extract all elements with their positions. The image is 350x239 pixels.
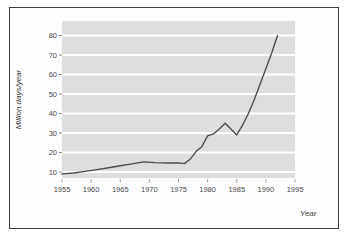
- svg-text:1960: 1960: [83, 185, 100, 194]
- svg-text:80: 80: [49, 31, 57, 40]
- svg-text:1955: 1955: [54, 185, 71, 194]
- y-axis-ticks: 1020304050607080: [49, 31, 62, 177]
- y-axis-title: Million days/year: [14, 60, 23, 140]
- svg-text:1990: 1990: [258, 185, 275, 194]
- svg-text:60: 60: [49, 70, 57, 79]
- svg-text:10: 10: [49, 168, 57, 177]
- svg-text:30: 30: [49, 129, 57, 138]
- svg-text:1965: 1965: [112, 185, 129, 194]
- svg-text:70: 70: [49, 51, 57, 60]
- x-axis-title: Year: [300, 209, 316, 218]
- plot-background: [62, 21, 295, 178]
- svg-text:1980: 1980: [199, 185, 216, 194]
- x-axis-ticks: 195519601965197019751980198519901995: [54, 179, 304, 194]
- svg-text:20: 20: [49, 148, 57, 157]
- svg-text:1970: 1970: [141, 185, 158, 194]
- svg-text:50: 50: [49, 90, 57, 99]
- svg-text:1985: 1985: [228, 185, 245, 194]
- svg-text:1975: 1975: [170, 185, 187, 194]
- figure-container: 1020304050607080 19551960196519701975198…: [0, 0, 350, 239]
- plot-wrapper: 1020304050607080 19551960196519701975198…: [0, 0, 350, 239]
- line-chart: 1020304050607080 19551960196519701975198…: [0, 0, 350, 239]
- svg-text:1995: 1995: [287, 185, 304, 194]
- svg-text:40: 40: [49, 109, 57, 118]
